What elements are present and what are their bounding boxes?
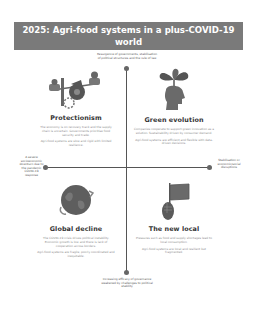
quadrant-heading: Green evolution — [128, 116, 220, 124]
axis-label-left: A severe socioeconomic downturn due to t… — [18, 156, 45, 178]
quadrant-paragraph: Companies cooperate to support green inn… — [134, 128, 214, 136]
axis-label-right: Stabilisation or economic/social disrupt… — [212, 159, 246, 170]
scales-gears-icon — [47, 70, 105, 110]
quadrant-green-evolution: Green evolution Companies cooperate to s… — [128, 66, 220, 149]
quadrant-heading: Global decline — [30, 225, 122, 233]
quadrant-protectionism: Protectionism The economy is on recovery… — [30, 70, 122, 151]
quadrant-paragraph: Pressures such as food and supply shorta… — [134, 237, 214, 245]
quadrant-heading: The new local — [128, 225, 220, 233]
quadrant-the-new-local: The new local Pressures such as food and… — [128, 181, 220, 258]
head-plant-icon — [156, 66, 192, 112]
quadrant-paragraph: Agri-food systems are slow and rigid wit… — [36, 140, 116, 148]
quadrant-heading: Protectionism — [30, 114, 122, 122]
axis-label-bottom: Increasing efficacy of governance weaken… — [96, 278, 158, 289]
axis-bottom-dot — [124, 270, 129, 275]
axis-label-top: Resurgence of governments, stabilisation… — [96, 53, 158, 60]
quadrant-global-decline: Global decline The COVID-19 crisis drive… — [30, 181, 122, 262]
globe-icon — [56, 181, 96, 221]
quadrant-paragraph: The economy is on recovery track and the… — [36, 126, 116, 137]
hand-flag-icon — [154, 181, 194, 221]
horizontal-axis — [45, 167, 209, 168]
quadrant-paragraph: The COVID-19 crisis drives political ins… — [36, 237, 116, 248]
vertical-axis — [126, 68, 127, 273]
page-title: 2025: Agri-food systems in a plus-COVID-… — [14, 22, 243, 50]
quadrant-paragraph: Agri-food systems are local and resilien… — [134, 248, 214, 256]
quadrant-paragraph: Agri-food systems are efficient and flex… — [134, 139, 214, 147]
quadrant-paragraph: Agri-food systems are fragile, poorly co… — [36, 251, 116, 259]
